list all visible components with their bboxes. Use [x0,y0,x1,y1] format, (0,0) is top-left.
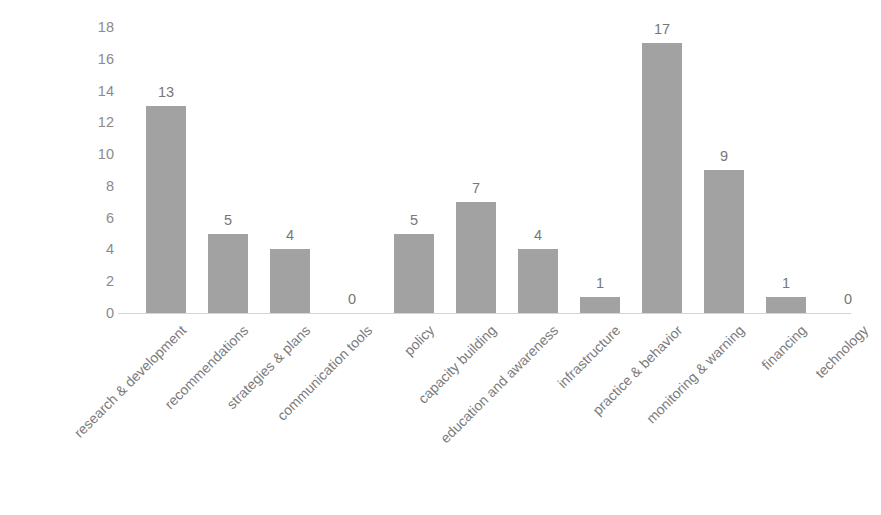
bar-value-label: 1 [569,276,631,291]
bar-chart: 024681012141618 13540574117910 research … [0,0,881,515]
bar [766,297,806,313]
bar [704,170,744,313]
bar [642,43,682,313]
bar [518,249,558,313]
bar [580,297,620,313]
bar-value-label: 4 [259,228,321,243]
bar [456,202,496,313]
bar [394,234,434,313]
bar-value-label: 1 [755,276,817,291]
bar-value-label: 13 [135,85,197,100]
bar-value-label: 0 [321,292,383,307]
bar-value-label: 5 [383,213,445,228]
bar [270,249,310,313]
bar [208,234,248,313]
bar-value-label: 0 [817,292,879,307]
bar-value-label: 7 [445,181,507,196]
bar [146,106,186,313]
bar-value-label: 17 [631,22,693,37]
bar-value-label: 9 [693,149,755,164]
bar-value-label: 5 [197,213,259,228]
bar-value-label: 4 [507,228,569,243]
